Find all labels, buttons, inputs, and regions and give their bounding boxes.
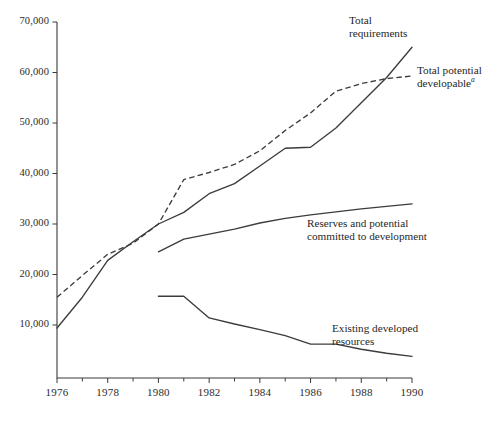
- y-tick-label: 40,000: [0, 167, 49, 178]
- series-line-total-requirements: [57, 47, 412, 328]
- x-tick-label: 1976: [33, 386, 81, 398]
- x-tick-label: 1990: [388, 386, 436, 398]
- x-tick-label: 1982: [185, 386, 233, 398]
- x-tick-label: 1980: [134, 386, 182, 398]
- annotation-total-requirements-line2: requirements: [349, 27, 407, 40]
- y-tick-label: 60,000: [0, 66, 49, 77]
- y-axis-ticks: [53, 22, 58, 325]
- annotation-total-requirements: Total requirements: [349, 14, 407, 40]
- annotation-existing-developed-resources-line1: Existing developed: [332, 322, 418, 335]
- series-line-total-potential-developable: [57, 76, 412, 297]
- x-tick-label: 1978: [84, 386, 132, 398]
- footnote-marker-a: a: [471, 75, 475, 84]
- data-series-group: [57, 47, 412, 356]
- x-tick-label: 1986: [287, 386, 335, 398]
- y-tick-label: 10,000: [0, 318, 49, 329]
- x-tick-label: 1984: [236, 386, 284, 398]
- line-chart-figure: 10,00020,00030,00040,00050,00060,00070,0…: [0, 0, 487, 423]
- x-tick-label: 1988: [337, 386, 385, 398]
- y-tick-label: 20,000: [0, 268, 49, 279]
- y-tick-label: 50,000: [0, 116, 49, 127]
- annotation-reserves-and-potential: Reserves and potential committed to deve…: [307, 217, 427, 243]
- y-tick-label: 70,000: [0, 15, 49, 26]
- annotation-existing-developed-resources: Existing developed resources: [332, 322, 418, 348]
- y-tick-label: 30,000: [0, 217, 49, 228]
- annotation-reserves-and-potential-line1: Reserves and potential: [307, 217, 427, 230]
- plot-area: [0, 0, 487, 423]
- annotation-total-potential-developable-line2: developablea: [417, 77, 482, 90]
- annotation-total-potential-developable-line2-text: developable: [417, 77, 471, 89]
- annotation-reserves-and-potential-line2: committed to development: [307, 230, 427, 243]
- x-axis-ticks: [57, 378, 412, 383]
- annotation-total-potential-developable: Total potential developablea: [417, 64, 482, 90]
- annotation-total-requirements-line1: Total: [349, 14, 407, 27]
- annotation-existing-developed-resources-line2: resources: [332, 335, 418, 348]
